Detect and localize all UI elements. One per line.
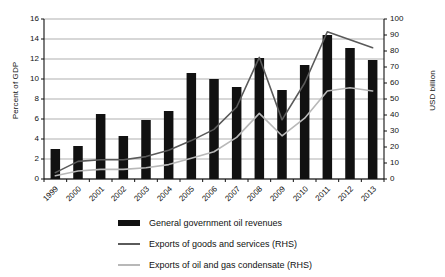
bar [164, 111, 174, 179]
bar [368, 60, 378, 179]
bar [187, 73, 197, 179]
legend-label: Exports of goods and services (RHS) [149, 239, 297, 249]
legend-item: General government oil revenues [118, 212, 418, 233]
legend-bar-swatch [118, 220, 140, 226]
bar [119, 136, 129, 179]
legend-line-swatch [118, 243, 140, 245]
chart-container: Percent of GDP USD billion 1614121086420… [0, 0, 445, 277]
legend-item: Exports of goods and services (RHS) [118, 233, 418, 254]
legend-line-swatch [118, 264, 140, 266]
chart-legend: General government oil revenuesExports o… [118, 212, 418, 275]
bar [141, 120, 151, 179]
bar [323, 35, 333, 179]
legend-item: Exports of oil and gas condensate (RHS) [118, 254, 418, 275]
bar [345, 48, 355, 179]
bar [255, 58, 265, 179]
legend-label: Exports of oil and gas condensate (RHS) [149, 260, 312, 270]
legend-label: General government oil revenues [149, 218, 282, 228]
bar [277, 90, 287, 179]
